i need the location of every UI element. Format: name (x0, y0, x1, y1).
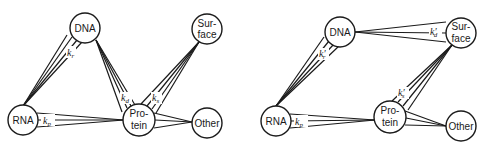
edge-protein-other (154, 113, 192, 128)
svg-text:RNA: RNA (12, 115, 33, 126)
rate-kp-right: kp (294, 115, 308, 129)
svg-text:RNA: RNA (265, 116, 286, 127)
node-dna: DNA (70, 13, 100, 43)
rate-kr-left: kr (66, 46, 76, 60)
rate-ks-left: ks (151, 92, 162, 105)
node-other: Other (192, 108, 222, 138)
node-protein: Pro- tein (123, 104, 155, 136)
svg-text:face: face (198, 29, 217, 40)
edge-surface-protein (141, 42, 199, 113)
edge-dna-rna (276, 37, 339, 106)
rate-ks-right: k′s (397, 87, 409, 100)
svg-text:face: face (452, 33, 471, 44)
right-diagram: k′r k′d kp k′s DNA Sur- face RNA (261, 17, 476, 141)
svg-text:Sur-: Sur- (452, 21, 471, 32)
left-diagram: kr kp kd ks DNA Sur- face RNA (8, 13, 222, 138)
edge-protein-other (405, 111, 446, 126)
svg-text:Other: Other (194, 118, 220, 129)
rate-kp-left: kp (41, 114, 55, 128)
node-rna: RNA (8, 105, 38, 135)
node-surface: Sur- face (192, 14, 222, 44)
svg-text:Pro-: Pro- (381, 105, 400, 116)
compartment-diagrams: kr kp kd ks DNA Sur- face RNA (0, 0, 487, 147)
node-protein: Pro- tein (374, 101, 406, 133)
svg-text:tein: tein (382, 117, 398, 128)
svg-text:DNA: DNA (74, 23, 95, 34)
node-rna: RNA (261, 106, 291, 136)
edge-surface-protein (392, 45, 452, 110)
node-dna: DNA (325, 17, 355, 47)
rate-kr-right: k′r (318, 48, 329, 61)
svg-text:tein: tein (131, 120, 147, 131)
rate-kd-right: k′d (429, 26, 442, 39)
node-other: Other (446, 111, 476, 141)
svg-text:DNA: DNA (329, 27, 350, 38)
rate-kd-left: kd (120, 92, 132, 105)
node-surface: Sur- face (446, 18, 476, 48)
svg-text:Other: Other (448, 121, 474, 132)
svg-text:Sur-: Sur- (198, 18, 217, 29)
svg-text:Pro-: Pro- (130, 108, 149, 119)
edge-dna-rna (23, 35, 82, 106)
